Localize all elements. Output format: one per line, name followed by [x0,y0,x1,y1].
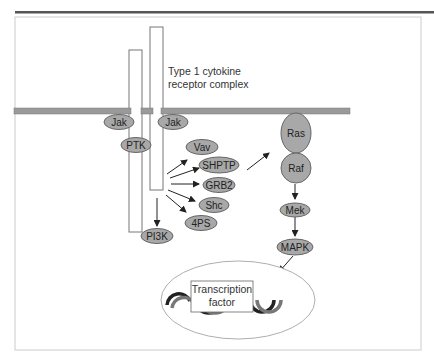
node-jak-right: Jak [158,115,188,130]
node-ptk: PTK [121,138,151,153]
svg-text:MAPK: MAPK [281,242,310,253]
nucleus: Transcription factor [161,261,315,339]
svg-text:PI3K: PI3K [146,231,168,242]
svg-text:PTK: PTK [126,140,146,151]
svg-text:Jak: Jak [111,117,128,128]
node-4ps: 4PS [185,216,217,231]
svg-text:GRB2: GRB2 [205,180,233,191]
tf-label-line1: Transcription [192,283,252,295]
receptor-label-line1: Type 1 cytokine [168,65,241,77]
node-grb2: GRB2 [203,178,235,193]
svg-text:SHPTP: SHPTP [202,160,236,171]
node-mek: Mek [280,203,310,217]
node-ras: Ras [281,113,311,153]
cytokine-signaling-diagram: Type 1 cytokine receptor complex Jak Jak… [0,0,434,362]
node-shc: Shc [199,198,229,213]
svg-text:Jak: Jak [165,117,182,128]
node-shptp: SHPTP [199,157,239,173]
node-jak-left: Jak [104,115,134,130]
node-mapk: MAPK [277,239,313,255]
svg-text:4PS: 4PS [192,218,211,229]
node-vav: Vav [186,140,218,155]
svg-text:Vav: Vav [194,142,211,153]
svg-text:Ras: Ras [287,128,305,139]
svg-text:Shc: Shc [205,200,222,211]
tf-label-line2: factor [209,296,236,308]
receptor-label-line2: receptor complex [168,78,249,90]
node-pi3k: PI3K [141,229,173,244]
node-raf: Raf [281,153,311,183]
svg-text:Mek: Mek [286,205,306,216]
header-rule [15,11,434,14]
svg-text:Raf: Raf [288,163,304,174]
